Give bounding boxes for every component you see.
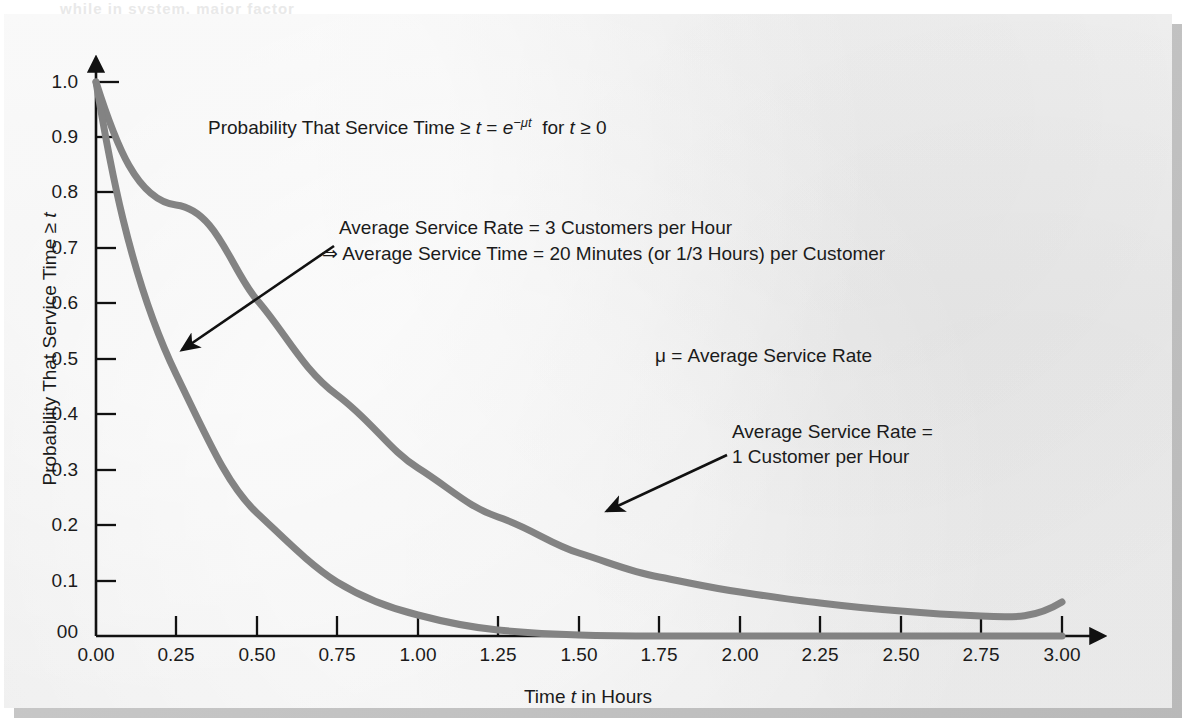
x-tick-label: 1.75 <box>624 644 694 666</box>
x-tick-label: 0.25 <box>141 644 211 666</box>
x-axis-title-suffix: in Hours <box>576 686 652 707</box>
y-axis-title-variable: t <box>39 212 60 217</box>
y-tick-label: 00 <box>22 621 78 643</box>
page-bleed-through-text: while in system. major factor <box>0 0 1190 14</box>
formula-equals: = <box>481 117 503 138</box>
curve1-annotation-line1: Average Service Rate = <box>732 421 933 443</box>
y-axis-title-prefix: Probability That Service Time ≥ <box>39 218 60 486</box>
x-tick-label: 2.50 <box>866 644 936 666</box>
y-axis-title: Probability That Service Time ≥ t <box>39 89 61 609</box>
formula-base-e: e <box>503 117 514 138</box>
formula-condition-lead: for <box>542 117 569 138</box>
x-tick-label: 0.50 <box>222 644 292 666</box>
formula-annotation: Probability That Service Time ≥ t = e−μt… <box>208 115 606 139</box>
x-axis-title-prefix: Time <box>524 686 571 707</box>
x-tick-label: 0.00 <box>61 644 131 666</box>
annotation-arrow-curve3 <box>182 246 334 350</box>
x-axis-title: Time t in Hours <box>4 686 1172 708</box>
x-tick-label: 2.75 <box>946 644 1016 666</box>
x-tick-label: 1.50 <box>544 644 614 666</box>
exponential-distribution-figure: Probability That Service Time ≥ t = e−μt… <box>4 14 1172 708</box>
x-tick-label: 1.00 <box>383 644 453 666</box>
curve3-annotation-line1: Average Service Rate = 3 Customers per H… <box>339 217 732 239</box>
curve3-annotation-line2: ⇒ Average Service Time = 20 Minutes (or … <box>322 242 885 265</box>
x-tick-label: 2.00 <box>705 644 775 666</box>
curve1-annotation-line2: 1 Customer per Hour <box>732 446 909 468</box>
mu-definition-legend: μ = Average Service Rate <box>655 345 872 367</box>
x-tick-label: 3.00 <box>1027 644 1097 666</box>
formula-lead: Probability That Service Time ≥ <box>208 117 476 138</box>
formula-exponent: −μt <box>513 115 531 130</box>
x-tick-label: 0.75 <box>302 644 372 666</box>
x-tick-label: 2.25 <box>785 644 855 666</box>
formula-condition-tail: ≥ 0 <box>575 117 607 138</box>
x-tick-label: 1.25 <box>463 644 533 666</box>
annotation-arrow-curve1 <box>607 455 727 511</box>
curve-mu-1 <box>96 82 1062 617</box>
